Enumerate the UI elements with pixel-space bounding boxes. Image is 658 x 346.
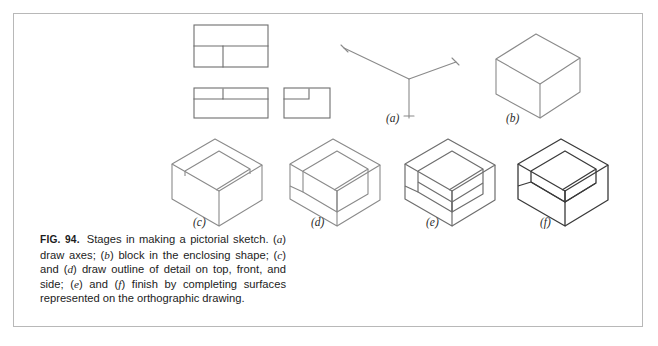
top-view [194,25,268,67]
figure-page: (a) (b) (c) (d) (e) (f) FIG. 94.Stages i… [0,0,658,346]
subfigure-a-axes [341,45,459,118]
sublabel-b: (b) [506,112,519,124]
figure-number: FIG. 94. [40,234,80,245]
caption-seg-1: Stages in making a pictorial sketch. [87,233,273,245]
subfigure-e-surfaces [405,139,495,226]
side-view [284,88,330,118]
subfigure-b-block [496,34,580,118]
subfigure-f-finished [518,139,608,226]
subfigure-c-top-detail [172,139,262,226]
sublabel-c: (c) [193,216,206,228]
sublabel-f: (f) [540,216,551,228]
orthographic-views-group [194,25,330,118]
caption-seg-3: ) block in the enclosing shape; ( [110,249,277,261]
front-view [194,88,268,118]
sublabel-a: (a) [386,112,399,124]
sublabel-d: (d) [311,216,324,228]
sublabel-e: (e) [426,216,439,228]
caption-seg-6: ) and ( [79,278,118,290]
figure-caption: FIG. 94.Stages in making a pictorial ske… [40,232,286,306]
subfigure-d-front-detail [290,139,380,226]
